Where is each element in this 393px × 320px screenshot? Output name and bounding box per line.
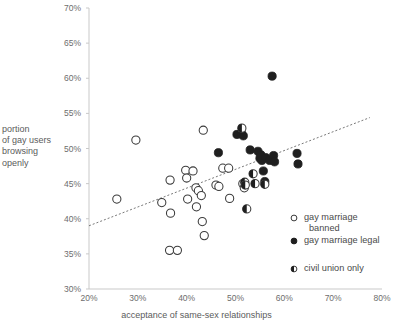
data-point	[165, 246, 173, 254]
axes	[86, 8, 382, 289]
data-point	[243, 205, 251, 213]
data-point	[261, 180, 269, 188]
data-points	[113, 72, 302, 254]
data-point	[241, 181, 249, 189]
data-point	[183, 174, 191, 182]
data-point	[173, 246, 181, 254]
data-point	[226, 194, 234, 202]
legend-label-banned-line1: gay marriage	[304, 212, 358, 222]
data-point	[215, 182, 223, 190]
data-point	[189, 167, 197, 175]
legend-label-civil-union: civil union only	[304, 263, 364, 274]
data-point	[293, 149, 301, 157]
data-point	[225, 164, 233, 172]
data-point	[184, 195, 192, 203]
half-filled-circle-icon	[290, 265, 298, 273]
data-point	[239, 132, 247, 140]
data-point	[132, 136, 140, 144]
data-point	[259, 167, 267, 175]
data-point	[294, 160, 302, 168]
data-point	[200, 232, 208, 240]
data-point	[268, 72, 276, 80]
data-point	[166, 209, 174, 217]
data-point	[270, 158, 278, 166]
data-point	[166, 176, 174, 184]
data-point	[198, 217, 206, 225]
data-point	[214, 149, 222, 157]
legend-label-banned-line2: banned	[304, 223, 340, 234]
data-point	[192, 203, 200, 211]
data-point	[197, 191, 205, 199]
data-point	[238, 124, 246, 132]
data-point	[199, 126, 207, 134]
data-point	[246, 146, 254, 154]
data-point	[251, 180, 259, 188]
data-point	[249, 170, 257, 178]
data-point	[113, 195, 121, 203]
scatter-chart: portion of gay users browsing openly acc…	[0, 0, 393, 320]
open-circle-icon	[290, 214, 298, 222]
legend-label-legal: gay marriage legal	[304, 235, 380, 246]
legend-label-banned: gay marriage banned	[304, 212, 358, 233]
data-point	[158, 198, 166, 206]
filled-circle-icon	[290, 237, 298, 245]
